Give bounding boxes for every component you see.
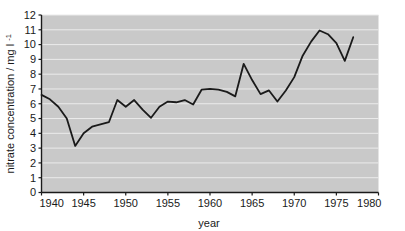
y-tick-label-3: 3 — [30, 142, 36, 154]
y-tick-label-0: 0 — [30, 186, 36, 198]
y-tick-label-9: 9 — [30, 53, 36, 65]
x-tick-label-1945: 1945 — [71, 197, 95, 209]
y-tick-label-7: 7 — [30, 83, 36, 95]
x-tick-label-1965: 1965 — [240, 197, 264, 209]
x-tick-label-1950: 1950 — [114, 197, 138, 209]
y-tick-label-12: 12 — [24, 9, 36, 21]
y-tick-label-1: 1 — [30, 172, 36, 184]
y-axis-title: nitrate concentration / mg l -1 — [4, 34, 17, 173]
y-tick-label-2: 2 — [30, 157, 36, 169]
x-tick-label-1975: 1975 — [324, 197, 348, 209]
x-tick-label-1970: 1970 — [282, 197, 306, 209]
x-tick-label-1960: 1960 — [198, 197, 222, 209]
x-tick-label-1955: 1955 — [156, 197, 180, 209]
x-axis-title: year — [198, 217, 220, 229]
chart-figure: 0123456789101112 19401945195019551960196… — [0, 0, 405, 231]
y-tick-label-8: 8 — [30, 68, 36, 80]
y-tick-label-6: 6 — [30, 98, 36, 110]
x-tick-label-1980: 1980 — [357, 197, 381, 209]
nitrate-concentration-line-chart: 0123456789101112 19401945195019551960196… — [0, 0, 405, 231]
y-tick-label-4: 4 — [30, 127, 36, 139]
y-tick-label-10: 10 — [24, 38, 36, 50]
y-axis-title-text: nitrate concentration / mg l -1 — [4, 34, 17, 173]
y-tick-label-5: 5 — [30, 112, 36, 124]
y-tick-label-11: 11 — [25, 24, 36, 36]
x-tick-label-1940: 1940 — [40, 197, 64, 209]
x-axis-tick-labels: 194019451950195519601965197019751980 — [40, 197, 382, 209]
